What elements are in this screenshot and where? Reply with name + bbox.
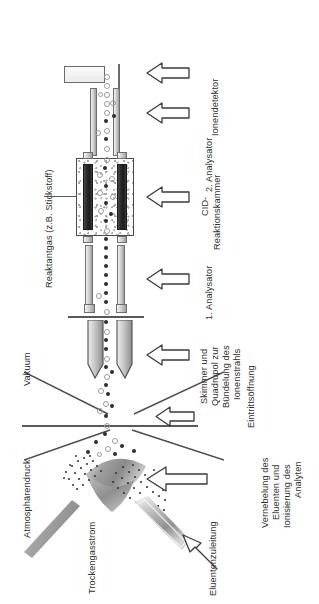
first-analyser-rod-right [117,245,125,307]
arrow-skimmer-quadrupole [146,344,190,366]
cid-cap-top-left [83,152,93,159]
label-skimmer-line-1: Skimmer und [199,349,210,404]
label-skimmer-line-4: Ionenstrahls [232,349,243,400]
arrow-second-analyser [146,102,190,124]
label-vernebelung-line-1: Vernebelung des [260,458,271,528]
label-vernebelung-line-3: Ionisierung des [282,464,293,528]
label-cid-line-1: CID- [200,197,211,216]
first-analyser-cap-left [84,304,95,313]
detector-stub [118,64,120,88]
label-vernebelung-line-2: Eluenten und [271,465,282,520]
spray-plume-left [60,452,104,492]
label-vernebelung-line-4: Analyten [293,461,304,498]
first-analyser-rod-left [85,245,93,307]
label-vakuum: Vakuum [22,352,33,386]
label-trockengasstrom: Trockengasstrom [87,522,98,594]
arrow-nebulisation [146,466,208,492]
diagram-canvas: Reaktantgas (z.B. Stickstoff) Ionendetek… [0,0,319,604]
label-cid-line-2: Reaktionskammer [212,174,223,250]
label-eintrittsoeffnung: Eintrittsöffnung [246,365,257,428]
label-eluentenzuleitung: Eluentenzuleitung [208,521,219,596]
cid-cap-top-right [117,152,127,159]
label-ionendetektor: Ionendetektor [210,79,221,137]
arrow-entrance-orifice [155,406,195,427]
second-analyser-rod-left [90,88,97,156]
arrow-cid-chamber [146,186,190,208]
second-analyser-rod-right [113,88,120,156]
label-analysator-1: 1. Analysator [204,266,215,320]
cid-rod-right [117,164,127,230]
arrow-first-analyser [146,268,190,290]
label-reaktantgas: Reaktantgas (z.B. Stickstoff) [44,169,55,288]
ion-detector-box [64,66,105,83]
label-atmosphaerendruck: Atmosphärendruck [22,459,33,538]
cid-rod-left [83,164,93,230]
label-skimmer-line-3: Bündelung des [221,345,232,408]
cid-cap-bottom-right [117,236,127,243]
aperture-plate [68,316,144,318]
cid-cap-bottom-left [83,236,93,243]
first-analyser-cap-right [116,304,127,313]
arrow-ion-detector [146,62,190,84]
label-skimmer-line-2: Quadrupol zur [210,346,221,406]
